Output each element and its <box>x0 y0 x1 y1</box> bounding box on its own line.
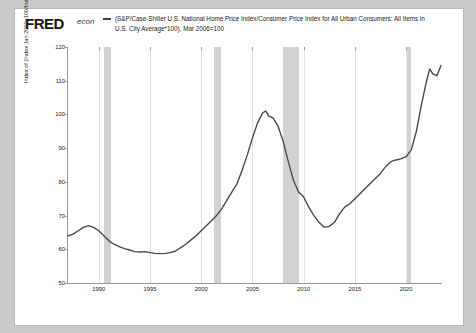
chart-title-text: (S&P/Case-Shiller U.S. National Home Pri… <box>115 14 433 34</box>
screenshot-root: FRED econ (S&P/Case-Shiller U.S. Nationa… <box>0 0 476 333</box>
plot-wrapper: Index of (Index Jan 2000=100/Index 1982-… <box>25 43 453 315</box>
x-tick-label: 2020 <box>400 286 413 292</box>
price-index-line <box>68 47 442 283</box>
chart-title: (S&P/Case-Shiller U.S. National Home Pri… <box>103 14 433 34</box>
legend-line-swatch <box>103 18 111 20</box>
x-tick-label: 2005 <box>246 286 259 292</box>
y-tick-label: 120 <box>55 44 65 50</box>
x-tick-label: 2015 <box>348 286 361 292</box>
y-tick-label: 100 <box>55 111 65 117</box>
fred-chart-card: FRED econ (S&P/Case-Shiller U.S. Nationa… <box>14 8 464 326</box>
x-tick-label: 1995 <box>144 286 157 292</box>
x-tick-label: 2000 <box>195 286 208 292</box>
fred-logo: FRED <box>25 15 64 32</box>
y-tick-label: 110 <box>56 78 65 84</box>
x-tick-label: 2010 <box>297 286 310 292</box>
fred-tagline: econ <box>77 17 94 26</box>
y-axis-label: Index of (Index Jan 2000=100/Index 1982-… <box>23 0 29 83</box>
plot-area: 5060708090100110120 19901995200020052010… <box>67 47 442 284</box>
chart-header: FRED econ (S&P/Case-Shiller U.S. Nationa… <box>15 9 463 43</box>
y-tick-mark <box>65 283 68 284</box>
x-tick-label: 1990 <box>92 286 105 292</box>
